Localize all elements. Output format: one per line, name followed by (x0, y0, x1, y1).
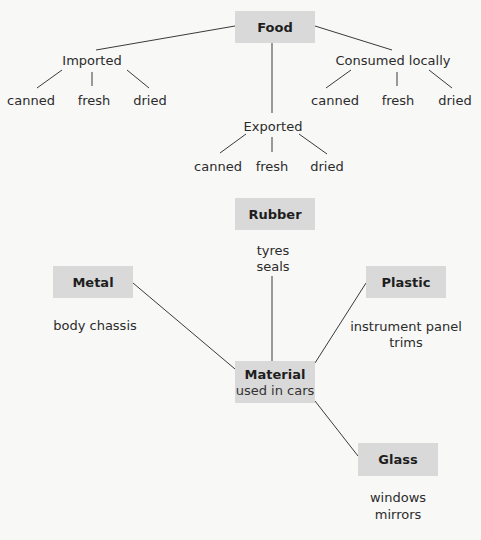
consumed-fresh: fresh (382, 92, 415, 109)
material-center-box: Material used in cars (235, 361, 315, 403)
rubber-item-tyres: tyres (257, 242, 290, 259)
material-to-glass-line (315, 401, 358, 456)
plastic-item-trims: trims (389, 334, 423, 351)
food-root-box: Food (235, 11, 315, 43)
exported-canned-line (220, 134, 246, 153)
plastic-item-instrument-panel: instrument panel (350, 318, 462, 335)
exported-dried: dried (310, 158, 343, 175)
material-center-subtitle: used in cars (236, 383, 315, 398)
consumed-canned-line (326, 70, 351, 88)
metal-item-body-chassis: body chassis (53, 317, 137, 334)
exported-dried-line (299, 134, 327, 154)
consumed-dried-line (429, 70, 452, 88)
consumed-canned: canned (311, 92, 359, 109)
glass-item-mirrors: mirrors (375, 506, 422, 523)
glass-box: Glass (358, 443, 438, 476)
glass-item-windows: windows (370, 489, 426, 506)
metal-title: Metal (72, 275, 113, 290)
metal-box: Metal (53, 266, 133, 298)
food-to-consumed-line (315, 26, 392, 50)
rubber-box: Rubber (235, 198, 315, 230)
exported-fresh: fresh (256, 158, 289, 175)
material-center-title: Material (245, 367, 306, 382)
rubber-title: Rubber (248, 207, 301, 222)
consumed-dried: dried (438, 92, 471, 109)
imported-dried: dried (133, 92, 166, 109)
plastic-title: Plastic (382, 275, 431, 290)
food-root-label: Food (257, 20, 293, 35)
imported-canned: canned (7, 92, 55, 109)
branch-exported: Exported (244, 118, 303, 135)
diagram-canvas: Food Imported canned fresh dried Consume… (0, 0, 481, 540)
branch-imported: Imported (62, 52, 121, 69)
rubber-item-seals: seals (256, 258, 289, 275)
branch-consumed-locally: Consumed locally (336, 52, 451, 69)
glass-title: Glass (378, 452, 417, 467)
plastic-box: Plastic (366, 266, 446, 298)
metal-to-material-line (133, 283, 235, 369)
imported-fresh: fresh (78, 92, 111, 109)
food-to-imported-line (96, 26, 235, 50)
imported-canned-line (37, 70, 62, 88)
imported-dried-line (127, 70, 149, 88)
exported-canned: canned (194, 158, 242, 175)
